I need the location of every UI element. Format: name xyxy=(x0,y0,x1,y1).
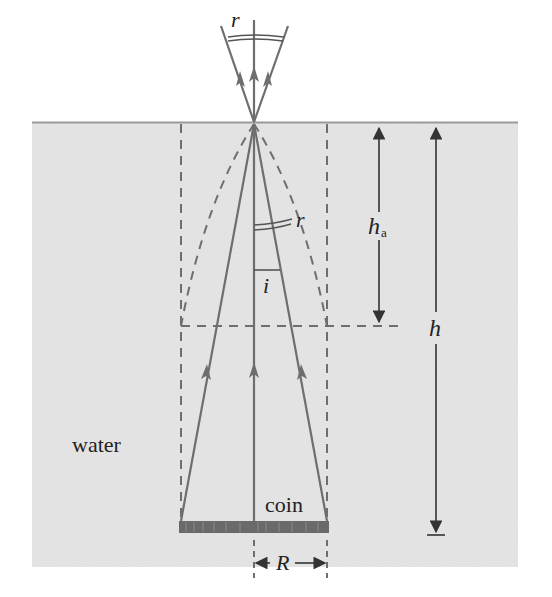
label-R: R xyxy=(275,550,290,575)
label-water: water xyxy=(72,432,122,457)
label-h-apparent-subscript: a xyxy=(381,225,387,240)
apparent-depth-diagram: r r i h a h water coin R xyxy=(0,0,552,597)
label-r-top: r xyxy=(231,7,240,32)
top-angle-arc-inner xyxy=(228,39,283,41)
coin xyxy=(179,521,329,533)
label-r-inner: r xyxy=(296,207,305,232)
label-h-real: h xyxy=(429,315,441,341)
label-i: i xyxy=(263,273,269,298)
top-angle-arc-outer xyxy=(228,35,284,37)
label-coin: coin xyxy=(265,492,303,517)
label-h-apparent: h xyxy=(368,213,380,239)
